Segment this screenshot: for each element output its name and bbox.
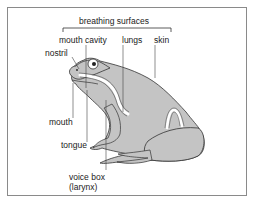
label-mouth-cavity: mouth cavity: [59, 36, 107, 45]
label-voice-box: voice box: [69, 173, 105, 182]
label-larynx: (larynx): [69, 183, 97, 192]
label-nostril: nostril: [45, 49, 68, 58]
nostril-mark: [76, 69, 78, 71]
label-skin: skin: [154, 36, 169, 45]
label-lungs: lungs: [122, 36, 142, 45]
label-mouth: mouth: [49, 118, 73, 127]
label-breathing-surfaces: breathing surfaces: [79, 17, 149, 26]
breathing-surfaces-bracket: [63, 28, 171, 32]
frog-illustration: [0, 0, 255, 204]
label-tongue: tongue: [61, 141, 87, 150]
